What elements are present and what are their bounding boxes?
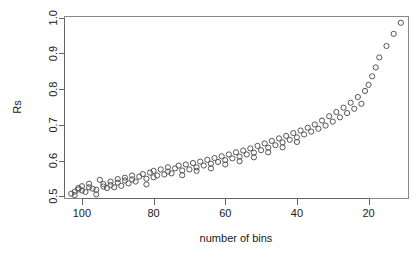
data-point [373,65,378,70]
scatter-plot-figure: 0.50.60.70.80.91.0 10080604020 number of… [0,0,420,258]
data-points [69,20,404,198]
data-point [319,118,324,123]
data-point [391,31,396,36]
data-point [384,43,389,48]
data-point [370,74,375,79]
x-axis-title: number of bins [200,232,273,244]
x-tick-label: 40 [291,207,303,219]
y-tick-label: 0.5 [47,189,59,204]
data-point [287,137,292,142]
data-point [115,176,120,181]
data-point [86,181,91,186]
data-point [355,94,360,99]
x-tick-label: 60 [219,207,231,219]
x-tick-label: 20 [362,207,374,219]
data-point [183,162,188,167]
data-point [377,55,382,60]
x-axis: 10080604020 [73,199,375,220]
data-point [344,110,349,115]
data-point [309,129,314,134]
y-axis: 0.50.60.70.80.91.0 [47,10,65,204]
data-point [144,176,149,181]
data-point [162,172,167,177]
data-point [176,163,181,168]
data-point [280,140,285,145]
data-point [316,126,321,131]
data-point [348,100,353,105]
data-point [327,114,332,119]
data-point [280,145,285,150]
data-point [201,163,206,168]
data-point [172,166,177,171]
data-point [341,105,346,110]
y-axis-title: Rs [11,100,23,114]
y-tick-label: 1.0 [47,10,59,25]
data-point [187,167,192,172]
y-tick-label: 0.8 [47,82,59,97]
data-point [352,106,357,111]
data-point [194,168,199,173]
data-point [359,101,364,106]
data-point [258,148,263,153]
data-point [273,143,278,148]
y-tick-label: 0.9 [47,46,59,61]
x-tick-label: 80 [147,207,159,219]
data-point [362,88,367,93]
data-point [330,119,335,124]
data-point [119,183,124,188]
data-point [323,123,328,128]
data-point [366,82,371,87]
y-tick-label: 0.6 [47,153,59,168]
y-tick-label: 0.7 [47,117,59,132]
data-point [215,159,220,164]
x-tick-label: 100 [73,207,91,219]
data-point [230,156,235,161]
data-point [301,132,306,137]
data-point [398,20,403,25]
data-point [108,179,113,184]
plot-canvas: 0.50.60.70.80.91.0 10080604020 number of… [0,0,420,258]
data-point [158,167,163,172]
data-point [244,152,249,157]
data-point [334,109,339,114]
data-point [144,182,149,187]
data-point [337,115,342,120]
